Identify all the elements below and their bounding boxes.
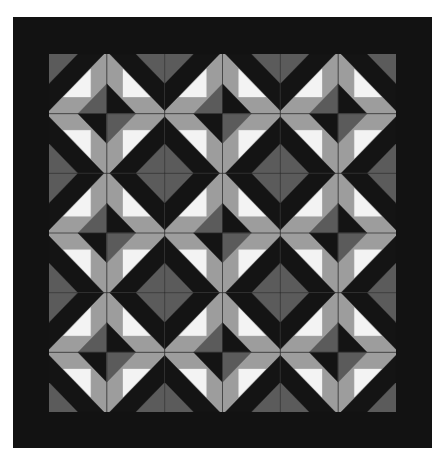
quilt-block (49, 352, 107, 412)
quilt-block (165, 352, 223, 412)
quilt-block (223, 233, 281, 293)
quilt-block (165, 233, 223, 293)
quilt-block (107, 352, 165, 412)
quilt-block (280, 293, 338, 353)
quilt-block (107, 293, 165, 353)
quilt-block (280, 233, 338, 293)
quilt-block (49, 233, 107, 293)
quilt-block (338, 173, 396, 233)
quilt-block (49, 173, 107, 233)
quilt-block (280, 173, 338, 233)
quilt-block (280, 54, 338, 114)
quilt-block (338, 233, 396, 293)
quilt-block (223, 173, 281, 233)
quilt-block (107, 114, 165, 174)
quilt-block (223, 293, 281, 353)
quilt-block (165, 293, 223, 353)
quilt-block (107, 173, 165, 233)
quilt-block (223, 54, 281, 114)
quilt-block (165, 173, 223, 233)
quilt-block (223, 352, 281, 412)
quilt-block (49, 114, 107, 174)
quilt-block (338, 352, 396, 412)
quilt-block (280, 114, 338, 174)
quilt-block (338, 293, 396, 353)
quilt-block (49, 293, 107, 353)
quilt-block (338, 114, 396, 174)
quilt-block (165, 54, 223, 114)
quilt-field (49, 54, 396, 412)
quilt-block (280, 352, 338, 412)
quilt-block (107, 54, 165, 114)
quilt-block (338, 54, 396, 114)
quilt-block (165, 114, 223, 174)
quilt-block (223, 114, 281, 174)
quilt-block (107, 233, 165, 293)
quilt-block (49, 54, 107, 114)
quilt-pattern (49, 54, 396, 412)
